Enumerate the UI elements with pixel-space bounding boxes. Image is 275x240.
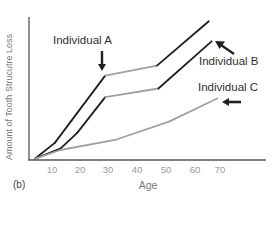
x-tick-60: 60 <box>190 164 201 175</box>
y-axis-label: Amount of Tooth Strucutre Loss <box>4 34 14 160</box>
annotation-individual-a: Individual A <box>53 34 112 46</box>
x-tick-20: 20 <box>75 164 86 175</box>
x-tick-70: 70 <box>215 164 226 175</box>
arrow-c-icon <box>222 98 241 106</box>
x-tick-50: 50 <box>161 164 172 175</box>
annotation-individual-b: Individual B <box>199 55 258 67</box>
x-tick-30: 30 <box>103 164 114 175</box>
line-segment <box>35 143 55 159</box>
line-segment <box>105 66 157 76</box>
arrow-b-icon <box>215 41 234 54</box>
line-segment <box>77 97 105 133</box>
x-axis-label: Age <box>139 179 158 191</box>
line-segment <box>115 121 170 140</box>
x-tick-10: 10 <box>47 164 58 175</box>
line-segment <box>55 76 105 143</box>
series-individual-b <box>35 41 211 158</box>
line-segment <box>170 99 218 122</box>
line-segment <box>35 150 60 159</box>
arrow-a-icon <box>98 51 106 71</box>
annotation-individual-c: Individual C <box>198 81 258 93</box>
line-segment <box>60 133 77 149</box>
panel-label: (b) <box>13 179 25 190</box>
x-tick-40: 40 <box>132 164 143 175</box>
line-segment <box>105 89 158 98</box>
series-individual-c <box>35 99 217 159</box>
